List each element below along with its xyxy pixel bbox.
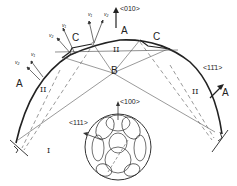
region-I: I: [47, 147, 50, 155]
region-C-left: C: [72, 33, 79, 43]
spherulite-sphere: [85, 114, 151, 180]
region-II-top: II: [113, 46, 119, 54]
region-A-left: A: [16, 79, 23, 89]
region-C-right: C: [153, 32, 160, 42]
crystal-growth-diagram: [0, 0, 237, 186]
region-II-right: II: [192, 88, 198, 96]
vector-v1-a: v₁: [31, 52, 35, 57]
step-left: [62, 44, 92, 58]
direction-11-1-label: <11̄1>: [203, 64, 222, 71]
vector-v1-c: v₁: [88, 12, 92, 17]
direction-111-label: <111>: [69, 119, 88, 126]
vector-v2-a: v₂: [15, 60, 19, 65]
vector-v2-c: v₂: [104, 12, 108, 17]
region-A-top: A: [121, 26, 128, 36]
region-A-right: A: [222, 88, 229, 98]
region-B: B: [111, 66, 118, 76]
region-II-left: II: [40, 86, 46, 94]
vector-v1-b: v₁: [62, 23, 66, 28]
direction-010-label: <010>: [120, 5, 140, 12]
vector-v2-b: v₂: [49, 33, 53, 38]
direction-100-label: <100>: [120, 98, 140, 105]
